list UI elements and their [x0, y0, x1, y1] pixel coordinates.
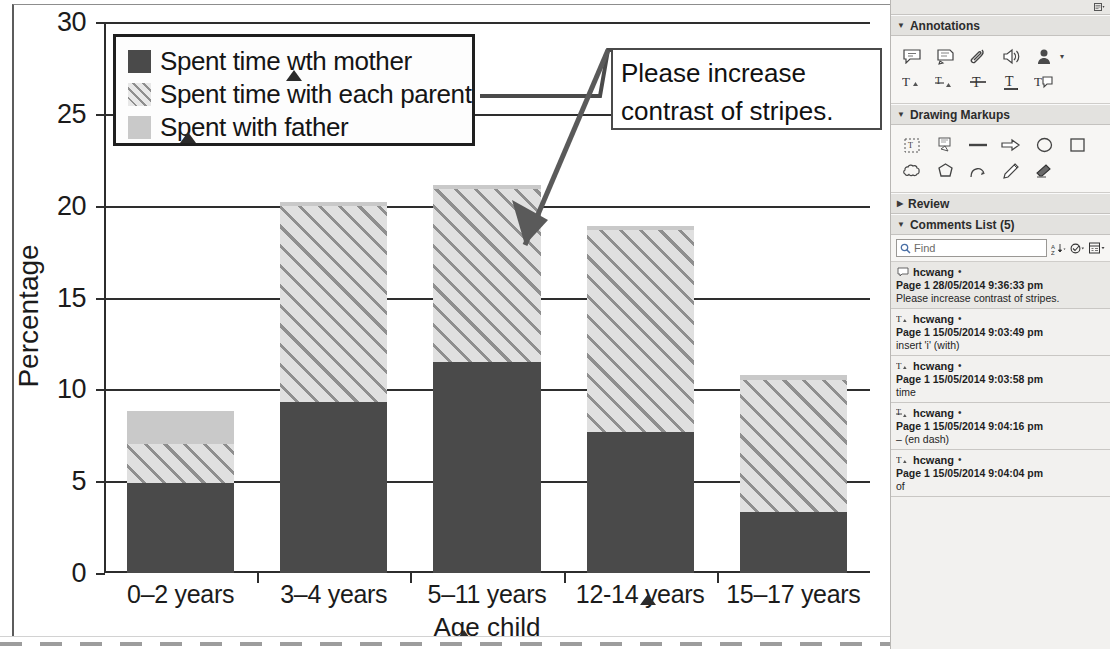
pdf-document-area[interactable]: 051015202530 Percentage 0–2 years3–4 yea… [0, 0, 890, 649]
bar-segment-father [127, 411, 234, 444]
annotations-toolbar[interactable]: ▾ T T T T T [891, 36, 1110, 104]
comment-text: of [896, 480, 1105, 492]
comment-item[interactable]: Thcwang•Page 1 15/05/2014 9:04:16 pm– (e… [891, 403, 1110, 450]
filter-icon[interactable] [1070, 242, 1085, 255]
bar-segment-mother [127, 483, 234, 573]
y-tick-20 [96, 206, 105, 208]
comment-meta: Page 1 15/05/2014 9:04:04 pm [896, 467, 1105, 479]
comment-author: hcwang [913, 407, 954, 419]
x-tick-label: 5–11 years [410, 580, 563, 609]
legend-swatch-mother [128, 50, 151, 73]
comment-header: Thcwang• [896, 406, 1105, 419]
comments-list[interactable]: hcwang•Page 1 28/05/2014 9:36:33 pmPleas… [891, 262, 1110, 497]
callout-line-2: contrast of stripes. [621, 92, 872, 130]
stamp-icon[interactable] [1033, 45, 1055, 67]
insert-caret-mark-father[interactable] [180, 132, 196, 143]
x-tick-label: 15–17 years [717, 580, 870, 609]
eraser-icon[interactable] [1033, 160, 1055, 182]
panel-options-icon[interactable] [1094, 3, 1105, 12]
comment-text: – (en dash) [896, 433, 1105, 445]
insert-caret-mark-age-range[interactable] [640, 594, 656, 605]
sticky-note-icon [896, 265, 909, 278]
comment-status-marker[interactable]: • [958, 454, 962, 465]
annotation-tool-row-2: T T T T T [901, 69, 1102, 95]
svg-text:T: T [902, 74, 910, 89]
polyline-icon[interactable] [967, 160, 989, 182]
comment-status-marker[interactable]: • [958, 266, 962, 277]
bar-segment-mother [587, 432, 694, 573]
attach-file-icon[interactable] [967, 45, 989, 67]
svg-text:T: T [908, 141, 913, 150]
insert-text-icon[interactable]: T [901, 71, 923, 93]
legend-swatch-father [128, 116, 151, 139]
y-tick-30 [96, 22, 105, 24]
page-shadow-dashes [0, 642, 890, 646]
chevron-down-icon: ▼ [897, 220, 905, 229]
text-highlight-icon[interactable] [934, 45, 956, 67]
pencil-icon[interactable] [1000, 160, 1022, 182]
replace-text-icon[interactable]: T [934, 71, 956, 93]
sticky-note-icon[interactable] [901, 45, 923, 67]
insert-caret-mark-mother[interactable] [286, 70, 302, 81]
text-box-icon[interactable]: T [901, 134, 923, 156]
section-header-annotations[interactable]: ▼ Annotations [891, 15, 1110, 36]
cloud-icon[interactable] [901, 160, 923, 182]
legend-label: Spent time with each parent [160, 79, 472, 110]
comment-status-marker[interactable]: • [958, 360, 962, 371]
comment-author: hcwang [913, 454, 954, 466]
comment-meta: Page 1 28/05/2014 9:36:33 pm [896, 279, 1105, 291]
find-input[interactable]: Find [896, 239, 1047, 257]
strikethrough-icon[interactable]: T [967, 71, 989, 93]
options-icon[interactable] [1089, 242, 1105, 255]
bar-segment-father [433, 185, 540, 189]
section-title-annotations: Annotations [910, 19, 980, 33]
chevron-down-icon: ▼ [897, 110, 905, 119]
y-tick-label: 5 [30, 466, 86, 497]
sort-icon[interactable]: AZ [1051, 242, 1066, 255]
callout-icon[interactable] [934, 134, 956, 156]
comment-item[interactable]: Thcwang•Page 1 15/05/2014 9:03:58 pmtime [891, 356, 1110, 403]
callout-text-box[interactable]: Please increase contrast of stripes. [611, 48, 882, 130]
stamp-dropdown-caret-icon[interactable]: ▾ [1060, 52, 1064, 61]
svg-text:T: T [1034, 74, 1042, 89]
section-header-drawing-markups[interactable]: ▼ Drawing Markups [891, 104, 1110, 125]
comments-find-bar[interactable]: Find AZ [891, 235, 1110, 262]
add-note-to-text-icon[interactable]: T [1033, 71, 1055, 93]
comment-meta: Page 1 15/05/2014 9:03:58 pm [896, 373, 1105, 385]
rectangle-icon[interactable] [1066, 134, 1088, 156]
comment-author: hcwang [913, 360, 954, 372]
find-placeholder: Find [914, 242, 935, 254]
bar-segment-father [740, 375, 847, 381]
bar-segment-mother [740, 512, 847, 573]
section-header-review[interactable]: ▶ Review [891, 193, 1110, 214]
panel-top-bar [891, 0, 1110, 15]
svg-text:T: T [1005, 74, 1014, 89]
comment-status-marker[interactable]: • [958, 313, 962, 324]
svg-text:T: T [896, 455, 902, 465]
oval-icon[interactable] [1033, 134, 1055, 156]
comment-status-marker[interactable]: • [958, 407, 962, 418]
record-audio-icon[interactable] [1000, 45, 1022, 67]
section-header-comments-list[interactable]: ▼ Comments List (5) [891, 214, 1110, 235]
comment-header: Thcwang• [896, 453, 1105, 466]
comment-item[interactable]: Thcwang•Page 1 15/05/2014 9:04:04 pmof [891, 450, 1110, 497]
bar-segment-father [587, 226, 694, 230]
bar-segment-each_parent [433, 189, 540, 362]
bar-segment-each_parent [127, 444, 234, 483]
x-tick-label: 3–4 years [257, 580, 410, 609]
line-icon[interactable] [967, 134, 989, 156]
bar-segment-father [280, 202, 387, 206]
comment-item[interactable]: hcwang•Page 1 28/05/2014 9:36:33 pmPleas… [891, 262, 1110, 309]
y-tick-10 [96, 389, 105, 391]
x-tick-label: 0–2 years [104, 580, 257, 609]
arrow-icon[interactable] [1000, 134, 1022, 156]
bar-segment-each_parent [280, 206, 387, 403]
comments-side-panel[interactable]: ▼ Annotations ▾ T [890, 0, 1110, 649]
polygon-icon[interactable] [934, 160, 956, 182]
chart-legend: Spent time wth motherSpent time with eac… [113, 34, 475, 146]
comment-item[interactable]: Thcwang•Page 1 15/05/2014 9:03:49 pminse… [891, 309, 1110, 356]
underline-icon[interactable]: T [1000, 71, 1022, 93]
drawing-markups-toolbar[interactable]: T [891, 125, 1110, 193]
comment-header: hcwang• [896, 265, 1105, 278]
section-title-comments-list: Comments List (5) [910, 218, 1015, 232]
